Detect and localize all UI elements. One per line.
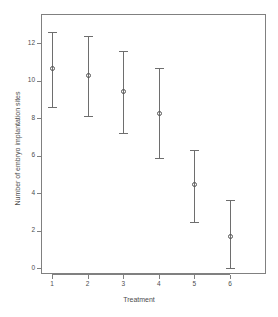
x-axis-tick — [123, 275, 124, 279]
x-axis-spine — [52, 274, 230, 275]
errorbar-cap-upper — [155, 68, 164, 69]
errorbar-cap-lower — [119, 133, 128, 134]
y-axis-title: Number of embryo implantation sites — [14, 69, 21, 229]
errorbar-cap-lower — [226, 268, 235, 269]
y-axis-tick-label: 0 — [31, 265, 35, 272]
y-axis-tick-label: 8 — [31, 115, 35, 122]
x-axis-tick-label: 2 — [78, 281, 98, 288]
x-axis-tick-label: 6 — [220, 281, 240, 288]
y-axis-tick-label: 6 — [31, 152, 35, 159]
data-point-marker — [50, 66, 55, 71]
x-axis-tick — [159, 275, 160, 279]
data-point-marker — [228, 234, 233, 239]
x-axis-tick — [230, 275, 231, 279]
chart-figure: 024681012 123456 Treatment Number of emb… — [0, 0, 278, 317]
errorbar-cap-upper — [226, 200, 235, 201]
data-point-marker — [157, 111, 162, 116]
x-axis-tick-label: 1 — [42, 281, 62, 288]
x-axis-tick-label: 3 — [113, 281, 133, 288]
x-axis-tick-label: 5 — [184, 281, 204, 288]
errorbar-cap-lower — [84, 116, 93, 117]
data-point-marker — [86, 73, 91, 78]
errorbar-cap-upper — [119, 51, 128, 52]
x-axis-tick-label: 4 — [149, 281, 169, 288]
y-axis-tick-label: 4 — [31, 190, 35, 197]
errorbar-cap-upper — [48, 32, 57, 33]
y-axis-tick-label: 2 — [31, 227, 35, 234]
y-axis-tick-label: 10 — [28, 77, 35, 84]
errorbar-cap-upper — [84, 36, 93, 37]
errorbar-cap-lower — [155, 158, 164, 159]
errorbar-cap-lower — [48, 107, 57, 108]
y-axis-tick — [37, 268, 41, 269]
x-axis-tick — [88, 275, 89, 279]
x-axis-tick — [194, 275, 195, 279]
y-axis-tick-label: 12 — [28, 40, 35, 47]
errorbar-cap-upper — [190, 150, 199, 151]
x-axis-title: Treatment — [0, 296, 278, 303]
y-axis-spine — [41, 43, 42, 268]
x-axis-tick — [52, 275, 53, 279]
errorbar-cap-lower — [190, 222, 199, 223]
